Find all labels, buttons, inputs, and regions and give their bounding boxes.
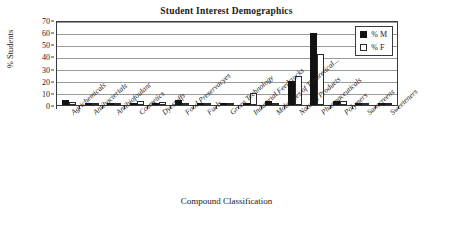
x-axis-tick-mark bbox=[56, 106, 57, 109]
y-axis-tick-mark bbox=[51, 69, 54, 70]
y-axis-tick-mark bbox=[51, 81, 54, 82]
y-axis-tick-mark bbox=[51, 33, 54, 34]
legend-swatch-female-icon bbox=[360, 44, 367, 51]
x-axis-label: Compound Classification bbox=[0, 196, 453, 206]
y-axis-tick-mark bbox=[51, 93, 54, 94]
legend-label-female: % F bbox=[371, 43, 384, 52]
y-axis-tick-label: 0 bbox=[46, 102, 50, 111]
chart-title: Student Interest Demographics bbox=[0, 6, 453, 16]
y-axis-tick-label: 30 bbox=[42, 65, 50, 74]
bar-female bbox=[362, 103, 369, 105]
y-axis-tick-mark bbox=[51, 57, 54, 58]
y-axis-tick-label: 70 bbox=[42, 17, 50, 26]
legend-item-female: % F bbox=[360, 43, 387, 52]
y-axis-tick-mark bbox=[51, 21, 54, 22]
y-axis-tick-label: 50 bbox=[42, 41, 50, 50]
legend-label-male: % M bbox=[371, 30, 387, 39]
x-axis-label-container: AgrichemicalsAntibacterialsAntibiofoulan… bbox=[56, 110, 398, 172]
bar-group bbox=[216, 22, 239, 105]
chart-legend: % M % F bbox=[355, 26, 393, 56]
y-axis-tick-label: 20 bbox=[42, 77, 50, 86]
y-axis-tick-label: 10 bbox=[42, 89, 50, 98]
y-axis-tick-label: 60 bbox=[42, 29, 50, 38]
bar-male bbox=[62, 100, 69, 105]
bar-group bbox=[58, 22, 81, 105]
y-axis-tick-label: 40 bbox=[42, 53, 50, 62]
y-axis-tick-container: 010203040506070 bbox=[30, 21, 54, 106]
y-axis-tick-mark bbox=[51, 45, 54, 46]
legend-item-male: % M bbox=[360, 30, 387, 39]
chart-figure: Student Interest Demographics % Students… bbox=[0, 0, 453, 226]
y-axis-label: % Students bbox=[5, 30, 15, 69]
legend-swatch-male-icon bbox=[360, 31, 367, 38]
y-axis-tick-mark bbox=[51, 106, 54, 107]
